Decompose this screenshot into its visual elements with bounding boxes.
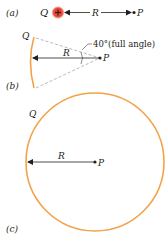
panel-c-charge-label: Q xyxy=(29,109,37,119)
panel-b-point-label: P xyxy=(102,53,110,63)
dashed-line-bottom xyxy=(36,58,100,88)
diagram-canvas: (a) Q R P Q R 40°(full angle) P (b) Q R xyxy=(0,0,167,239)
panel-c-label: (c) xyxy=(6,224,19,234)
point-p-dot xyxy=(98,56,101,59)
panel-a-point-label: P xyxy=(136,8,144,18)
point-charge-icon xyxy=(53,7,64,18)
angle-annotation: 40°(full angle) xyxy=(93,39,155,49)
panel-b-label: (b) xyxy=(6,81,19,91)
panel-a: (a) Q R P xyxy=(6,7,144,18)
panel-c-distance-label: R xyxy=(57,151,65,161)
panel-a-distance-label: R xyxy=(91,8,99,18)
panel-c: Q R P (c) xyxy=(6,93,164,234)
panel-b-charge-label: Q xyxy=(22,31,30,41)
angle-leader-line xyxy=(82,44,92,50)
panel-a-charge-label: Q xyxy=(40,7,48,18)
charged-arc xyxy=(31,37,35,88)
panel-a-label: (a) xyxy=(6,8,19,18)
point-p-dot xyxy=(93,160,96,163)
point-p-dot xyxy=(132,11,135,14)
panel-c-point-label: P xyxy=(97,158,105,168)
panel-b: Q R 40°(full angle) P (b) xyxy=(6,31,155,91)
panel-b-distance-label: R xyxy=(62,48,70,58)
